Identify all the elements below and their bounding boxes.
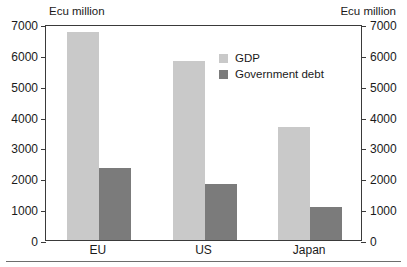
y-axis-label-left-7000: 7000 [11,20,38,32]
y-axis-label-right-2000: 2000 [370,174,397,186]
tick-mark-right-4000 [361,119,366,120]
tick-mark-right-7000 [361,26,366,27]
y-axis-label-right-5000: 5000 [370,82,397,94]
bar-us-government-debt [205,184,237,240]
bar-eu-government-debt [99,168,131,241]
legend-swatch-gdp [219,54,228,63]
y-axis-label-left-5000: 5000 [11,82,38,94]
footer-divider [6,261,401,262]
category-axis-labels: EUUSJapan [45,243,362,261]
y-axis-label-right-0: 0 [370,236,377,248]
bar-us-gdp [173,61,205,240]
chart-page: Ecu million Ecu million 0010001000200020… [0,0,407,267]
y-axis-label-right-7000: 7000 [370,20,397,32]
tick-mark-right-6000 [361,57,366,58]
y-axis-unit-caption-left: Ecu million [49,5,105,17]
y-axis-label-left-1000: 1000 [11,205,38,217]
plot-area: 0010001000200020003000300040004000500050… [45,25,362,241]
category-label-japan: Japan [293,243,326,257]
bar-eu-gdp [67,32,99,240]
chart-legend: GDPGovernment debt [219,53,324,80]
legend-item-gdp[interactable]: GDP [219,53,324,65]
y-axis-label-left-2000: 2000 [11,174,38,186]
legend-label-gdp: GDP [235,53,260,65]
legend-item-government-debt[interactable]: Government debt [219,69,324,81]
y-axis-label-left-4000: 4000 [11,113,38,125]
bar-japan-government-debt [310,207,342,240]
y-axis-label-left-6000: 6000 [11,51,38,63]
y-axis-label-right-3000: 3000 [370,143,397,155]
y-axis-label-right-4000: 4000 [370,113,397,125]
category-label-us: US [195,243,212,257]
tick-mark-right-2000 [361,180,366,181]
legend-swatch-government-debt [219,70,228,79]
bar-japan-gdp [278,127,310,240]
legend-label-government-debt: Government debt [235,69,324,81]
y-axis-label-right-1000: 1000 [370,205,397,217]
y-axis-label-left-3000: 3000 [11,143,38,155]
y-axis-label-right-6000: 6000 [370,51,397,63]
tick-mark-right-3000 [361,149,366,150]
y-axis-label-left-0: 0 [31,236,38,248]
tick-mark-right-1000 [361,211,366,212]
category-label-eu: EU [89,243,106,257]
y-axis-unit-caption-right: Ecu million [340,5,396,17]
tick-mark-right-5000 [361,88,366,89]
